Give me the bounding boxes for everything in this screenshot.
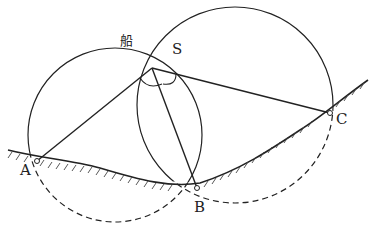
diagram-svg [0,0,374,248]
diagram: 船 S A B C [0,0,374,248]
point-A-marker [35,159,40,164]
point-C-marker [328,111,333,116]
point-A-label: A [20,163,31,178]
line-SA [37,68,152,161]
angle-arc-BSC [163,74,176,84]
point-S-label: S [172,42,182,57]
ship-label: 船 [120,34,133,47]
point-B-label: B [194,200,205,215]
line-SC [152,68,330,113]
ground-line [8,80,368,185]
line-SB [152,68,197,188]
angle-arc-ASB [140,78,162,86]
point-C-label: C [336,112,347,127]
point-B-marker [195,186,200,191]
